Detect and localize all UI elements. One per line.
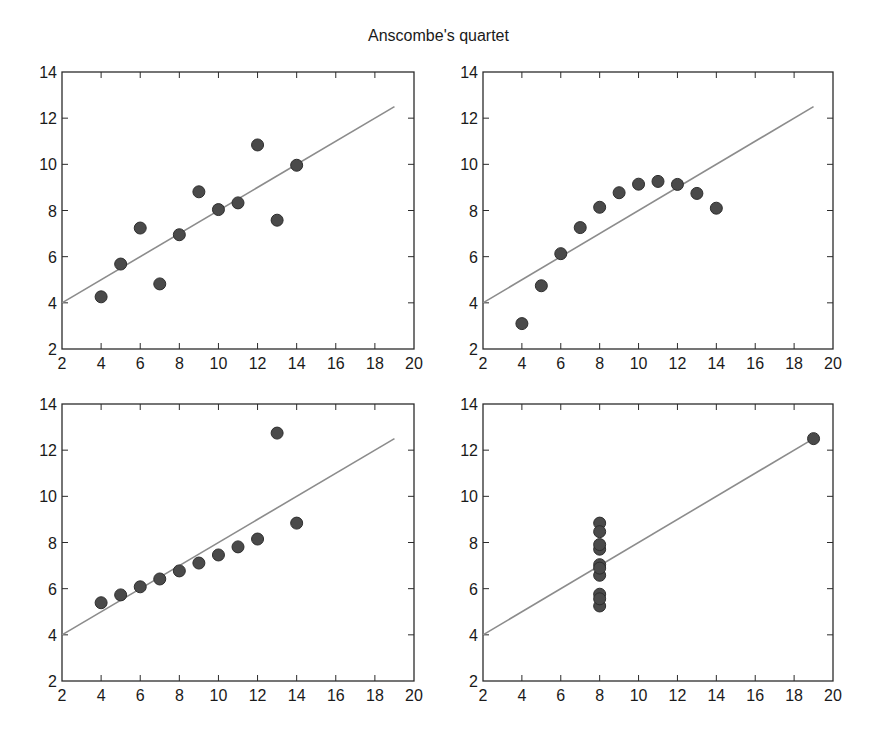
y-tick-label: 10 [460, 156, 478, 173]
x-tick-label: 12 [249, 355, 267, 372]
data-point [555, 248, 567, 260]
x-tick-label: 8 [595, 355, 604, 372]
y-tick-label: 2 [48, 341, 57, 358]
data-point [134, 222, 146, 234]
x-tick-label: 4 [517, 687, 526, 704]
data-point [691, 187, 703, 199]
y-tick-label: 8 [48, 535, 57, 552]
x-tick-label: 10 [630, 687, 648, 704]
regression-line [62, 439, 394, 635]
data-point [291, 159, 303, 171]
data-point [535, 280, 547, 292]
x-tick-label: 16 [746, 355, 764, 372]
y-tick-label: 2 [469, 341, 478, 358]
y-tick-label: 8 [48, 203, 57, 220]
data-point [710, 202, 722, 214]
x-tick-label: 20 [405, 687, 423, 704]
scatter-panel-2: 24681012141618202468101214 [460, 64, 842, 372]
y-tick-label: 10 [39, 488, 57, 505]
data-point [652, 175, 664, 187]
x-tick-label: 20 [405, 355, 423, 372]
y-tick-label: 4 [48, 295, 57, 312]
regression-line [62, 107, 394, 303]
x-tick-label: 12 [249, 687, 267, 704]
data-point [232, 197, 244, 209]
data-point [594, 539, 606, 551]
axes-frame [483, 72, 833, 349]
y-tick-label: 14 [460, 396, 478, 413]
y-tick-label: 12 [460, 442, 478, 459]
x-tick-label: 8 [175, 687, 184, 704]
y-tick-label: 14 [39, 64, 57, 81]
x-tick-label: 2 [58, 355, 67, 372]
axes-frame [62, 72, 414, 349]
y-tick-label: 4 [48, 627, 57, 644]
y-tick-label: 6 [48, 581, 57, 598]
data-point [115, 589, 127, 601]
x-tick-label: 18 [785, 687, 803, 704]
x-tick-label: 2 [58, 687, 67, 704]
x-tick-label: 4 [517, 355, 526, 372]
data-point [252, 139, 264, 151]
data-point [808, 433, 820, 445]
data-point [516, 318, 528, 330]
data-point [594, 562, 606, 574]
data-point [115, 258, 127, 270]
x-tick-label: 16 [746, 687, 764, 704]
y-tick-label: 2 [469, 673, 478, 690]
y-tick-label: 10 [39, 156, 57, 173]
x-tick-label: 14 [707, 355, 725, 372]
data-point [613, 187, 625, 199]
x-tick-label: 2 [479, 687, 488, 704]
data-point [193, 186, 205, 198]
y-tick-label: 8 [469, 203, 478, 220]
y-tick-label: 4 [469, 627, 478, 644]
scatter-panel-3: 24681012141618202468101214 [39, 396, 423, 704]
y-tick-label: 2 [48, 673, 57, 690]
y-tick-label: 6 [469, 581, 478, 598]
data-point [271, 214, 283, 226]
y-tick-label: 12 [460, 110, 478, 127]
data-point [594, 526, 606, 538]
data-point [212, 204, 224, 216]
y-tick-label: 8 [469, 535, 478, 552]
data-point [252, 533, 264, 545]
data-point [154, 278, 166, 290]
y-tick-label: 10 [460, 488, 478, 505]
data-point [95, 291, 107, 303]
data-point [95, 597, 107, 609]
x-tick-label: 14 [288, 355, 306, 372]
axes-frame [483, 404, 833, 681]
x-tick-label: 14 [707, 687, 725, 704]
x-tick-label: 8 [175, 355, 184, 372]
x-tick-label: 10 [210, 687, 228, 704]
regression-line [483, 107, 814, 303]
y-tick-label: 4 [469, 295, 478, 312]
x-tick-label: 16 [327, 687, 345, 704]
y-tick-label: 12 [39, 110, 57, 127]
scatter-panel-4: 24681012141618202468101214 [460, 396, 842, 704]
x-tick-label: 10 [630, 355, 648, 372]
data-point [154, 573, 166, 585]
x-tick-label: 20 [824, 355, 842, 372]
y-tick-label: 14 [39, 396, 57, 413]
y-tick-label: 6 [48, 249, 57, 266]
data-point [594, 201, 606, 213]
x-tick-label: 16 [327, 355, 345, 372]
data-point [633, 178, 645, 190]
x-tick-label: 6 [556, 355, 565, 372]
data-point [291, 517, 303, 529]
x-tick-label: 6 [556, 687, 565, 704]
x-tick-label: 10 [210, 355, 228, 372]
scatter-panel-1: 24681012141618202468101214 [39, 64, 423, 372]
x-tick-label: 14 [288, 687, 306, 704]
data-point [271, 427, 283, 439]
x-tick-label: 18 [785, 355, 803, 372]
data-point [574, 222, 586, 234]
x-tick-label: 4 [97, 687, 106, 704]
x-tick-label: 12 [669, 355, 687, 372]
x-tick-label: 8 [595, 687, 604, 704]
y-tick-label: 14 [460, 64, 478, 81]
anscombe-quartet-chart: 2468101214161820246810121424681012141618… [0, 0, 877, 736]
x-tick-label: 12 [669, 687, 687, 704]
